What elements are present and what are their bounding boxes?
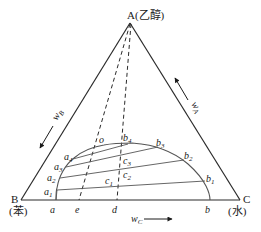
axis-label-wc: wC — [131, 213, 143, 226]
point-label-d: d — [112, 204, 118, 215]
point-label-a3: a3 — [54, 161, 63, 174]
point-label-a4: a4 — [64, 151, 73, 164]
point-label-o: o — [99, 134, 104, 145]
point-label-b: b — [205, 204, 210, 215]
point-label-c1: c1 — [105, 175, 113, 188]
axis-wa: wA — [175, 78, 205, 116]
arrow-up-left-icon — [175, 78, 188, 100]
point-label-a: a — [50, 204, 55, 215]
vertex-b-name: (苯) — [9, 204, 28, 218]
point-label-c3: c3 — [123, 155, 131, 168]
tie-line-a1-b1 — [57, 181, 205, 190]
point-label-b1: b1 — [206, 173, 215, 186]
axis-wb: wB — [40, 106, 67, 148]
edge-ab — [21, 23, 130, 200]
vertex-a-label: A(乙醇) — [127, 8, 165, 22]
vertex-b-letter: B — [11, 193, 18, 205]
vertex-c-letter: C — [243, 193, 250, 205]
ternary-phase-diagram: A(乙醇) B (苯) C (水) a e d b a1 a2 a3 a4 o … — [0, 0, 261, 232]
tie-line-a2-b2 — [60, 160, 184, 178]
point-label-b2: b2 — [184, 150, 193, 163]
point-label-a2: a2 — [47, 172, 56, 185]
point-label-c2: c2 — [123, 169, 131, 182]
point-label-a1: a1 — [44, 186, 53, 199]
axis-wc: wC — [131, 213, 172, 226]
arrow-down-left-icon — [40, 126, 53, 148]
axis-label-wb: wB — [49, 106, 66, 123]
point-label-e: e — [75, 204, 80, 215]
point-label-b3: b3 — [156, 137, 165, 150]
edge-ac — [130, 23, 240, 200]
axis-label-wa: wA — [188, 99, 205, 116]
tie-line-a4-b4 — [73, 144, 128, 159]
vertex-c-name: (水) — [228, 205, 247, 218]
